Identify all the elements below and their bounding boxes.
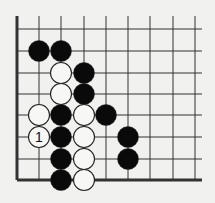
white-stone — [51, 84, 72, 105]
move-number-label: 1 — [35, 129, 43, 145]
black-stone — [74, 84, 95, 105]
black-stone — [51, 149, 72, 170]
black-stone — [96, 105, 117, 126]
black-stone — [51, 127, 72, 148]
go-board: 1 — [0, 0, 215, 203]
board-grid — [17, 16, 202, 180]
white-stone — [74, 127, 95, 148]
black-stone — [51, 170, 72, 191]
black-stone — [118, 149, 139, 170]
white-stone — [74, 149, 95, 170]
black-stone — [51, 105, 72, 126]
black-stone — [118, 127, 139, 148]
white-stone — [74, 170, 95, 191]
black-stone — [74, 63, 95, 84]
white-stone — [51, 63, 72, 84]
white-stone — [74, 105, 95, 126]
black-stone — [51, 41, 72, 62]
black-stone — [29, 41, 50, 62]
white-stone-move-1: 1 — [29, 127, 50, 148]
white-stone — [29, 105, 50, 126]
